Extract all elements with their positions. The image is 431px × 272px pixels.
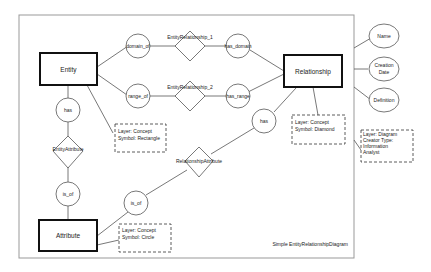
svg-text:Layer: Concept: Layer: Concept	[118, 128, 153, 134]
relationship-box[interactable]: Relationship	[284, 55, 342, 87]
svg-text:Creation: Creation	[375, 62, 394, 68]
attribute-box[interactable]: Attribute	[39, 220, 97, 251]
svg-text:EntityRelationship_1: EntityRelationship_1	[167, 34, 213, 40]
role-range-of[interactable]: range_of	[126, 84, 150, 108]
attribute-label: Attribute	[56, 232, 81, 239]
svg-text:domain_of: domain_of	[126, 43, 150, 49]
note-rectangle: Layer: Concept Symbol: Rectangle	[115, 124, 166, 152]
property-definition[interactable]: Definition	[369, 88, 399, 112]
role-has-domain[interactable]: has_domain	[224, 34, 251, 58]
property-creation-date[interactable]: Creation Date	[369, 57, 399, 81]
note-circle: Layer: Concept Symbol: Circle	[119, 224, 171, 252]
svg-text:Date: Date	[379, 69, 390, 75]
note-diamond: Layer: Concept Symbol: Diamond	[292, 115, 345, 144]
svg-text:is_of: is_of	[63, 191, 74, 197]
svg-text:EntityRelationship_2: EntityRelationship_2	[167, 84, 213, 90]
svg-text:is_of: is_of	[131, 200, 142, 206]
svg-text:has: has	[64, 107, 73, 113]
entity-box[interactable]: Entity	[40, 53, 97, 85]
role-has-range[interactable]: has_range	[226, 84, 250, 108]
svg-text:Definition: Definition	[374, 97, 395, 103]
entity-label: Entity	[60, 66, 77, 74]
role-has-left[interactable]: has	[56, 98, 80, 122]
diagram-caption: Simple EntityRelationshipDiagram	[272, 241, 348, 247]
role-has-right[interactable]: has	[252, 109, 276, 133]
svg-text:has_domain: has_domain	[224, 43, 251, 49]
svg-text:EntityAttribute: EntityAttribute	[52, 146, 83, 152]
relation-entity-attribute[interactable]: EntityAttribute	[52, 136, 83, 168]
svg-text:range_of: range_of	[128, 93, 148, 99]
svg-text:Layer: Concept: Layer: Concept	[295, 119, 330, 125]
property-name[interactable]: Name	[369, 24, 399, 48]
role-is-of-left[interactable]: is_of	[56, 182, 80, 206]
svg-text:RelationshipAttribute: RelationshipAttribute	[176, 158, 222, 164]
svg-text:has_range: has_range	[226, 93, 250, 99]
role-is-of-right[interactable]: is_of	[124, 191, 148, 215]
svg-text:has: has	[260, 118, 269, 124]
relationship-label: Relationship	[295, 68, 331, 76]
svg-text:Symbol: Rectangle: Symbol: Rectangle	[118, 135, 160, 141]
role-domain-of[interactable]: domain_of	[126, 34, 150, 58]
svg-text:Name: Name	[377, 33, 391, 39]
svg-text:Symbol: Circle: Symbol: Circle	[122, 234, 154, 240]
svg-text:Layer: Concept: Layer: Concept	[122, 227, 157, 233]
svg-text:Symbol: Diamond: Symbol: Diamond	[295, 126, 335, 132]
svg-text:Analyst: Analyst	[363, 149, 380, 155]
er-diagram-canvas: Entity Relationship Attribute domain_of …	[0, 0, 431, 272]
note-diagram: Layer: Diagram Creator Type: Information…	[361, 130, 413, 162]
